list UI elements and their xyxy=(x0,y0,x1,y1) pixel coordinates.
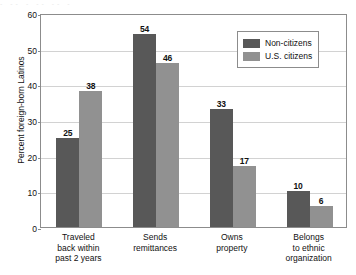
bar-value-label: 10 xyxy=(293,181,302,191)
y-axis-tick-label: 30 xyxy=(0,117,37,127)
x-axis-category-label: Traveledback withinpast 2 years xyxy=(55,232,101,264)
x-axis-category-label: Ownsproperty xyxy=(216,232,247,253)
plot-area: 0102030405060 253854463317106 Non-citize… xyxy=(40,14,347,228)
bar-value-label: 46 xyxy=(163,53,172,63)
bar-value-label: 38 xyxy=(86,81,95,91)
legend-label-non-citizens: Non-citizens xyxy=(265,38,312,48)
legend-item-us-citizens: U.S. citizens xyxy=(243,50,312,62)
bar-us-citizens xyxy=(79,91,102,227)
category-label-line: remittances xyxy=(133,243,177,254)
y-axis-tick-label: 20 xyxy=(0,153,37,163)
bar-non-citizens xyxy=(210,109,233,227)
y-axis-tick-mark xyxy=(38,51,41,52)
y-axis-tick-mark xyxy=(38,158,41,159)
bar-value-label: 17 xyxy=(240,156,249,166)
y-axis-tick-label: 50 xyxy=(0,46,37,56)
grouped-bar-chart: Percent foreign-born Latinos 01020304050… xyxy=(0,0,356,275)
bar-us-citizens xyxy=(310,206,333,227)
category-label-line: to ethnic xyxy=(285,243,331,254)
legend-item-non-citizens: Non-citizens xyxy=(243,37,312,49)
bar-value-label: 54 xyxy=(140,24,149,34)
legend-label-us-citizens: U.S. citizens xyxy=(265,51,312,61)
bar-non-citizens xyxy=(133,34,156,227)
y-axis-tick-label: 40 xyxy=(0,81,37,91)
bar-us-citizens xyxy=(156,63,179,227)
legend: Non-citizens U.S. citizens xyxy=(237,31,319,68)
x-axis-category-label: Belongsto ethnicorganization xyxy=(285,232,331,264)
legend-swatch-non-citizens xyxy=(243,39,260,48)
y-axis-tick-label: 60 xyxy=(0,10,37,20)
bar-non-citizens xyxy=(287,191,310,227)
y-axis-tick-mark xyxy=(38,193,41,194)
y-axis-tick-mark xyxy=(38,15,41,16)
y-axis-tick-mark xyxy=(38,122,41,123)
bar-non-citizens xyxy=(56,138,79,227)
category-label-line: past 2 years xyxy=(55,253,101,264)
category-label-line: back within xyxy=(55,243,101,254)
bar-value-label: 25 xyxy=(63,128,72,138)
category-label-line: Belongs xyxy=(285,232,331,243)
category-label-line: Traveled xyxy=(55,232,101,243)
bar-us-citizens xyxy=(233,166,256,227)
bar-value-label: 33 xyxy=(217,99,226,109)
category-label-line: organization xyxy=(285,253,331,264)
x-axis-category-label: Sendsremittances xyxy=(133,232,177,253)
category-label-line: Sends xyxy=(133,232,177,243)
y-axis-tick-mark xyxy=(38,86,41,87)
y-axis-tick-mark xyxy=(38,229,41,230)
y-axis-tick-label: 0 xyxy=(0,224,37,234)
category-label-line: Owns xyxy=(216,232,247,243)
legend-swatch-us-citizens xyxy=(243,52,260,61)
bar-value-label: 6 xyxy=(319,196,324,206)
category-label-line: property xyxy=(216,243,247,254)
y-axis-tick-label: 10 xyxy=(0,188,37,198)
